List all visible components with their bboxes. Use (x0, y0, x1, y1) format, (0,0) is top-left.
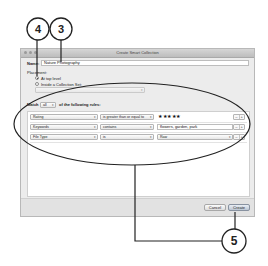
callout-overlay (0, 0, 268, 266)
callout-5-number: 5 (222, 233, 246, 249)
callout-3-number: 3 (50, 21, 72, 37)
rules-highlight-ellipse (14, 83, 250, 165)
callout-4-number: 4 (27, 21, 49, 37)
callout-5-leader-line (135, 165, 222, 241)
